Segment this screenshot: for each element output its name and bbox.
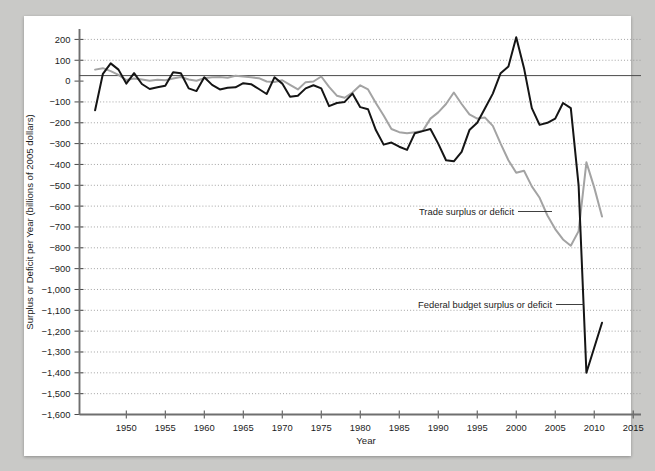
series-line-trade — [95, 68, 602, 246]
y-axis-title: Surplus or Deficit per Year (billions of… — [24, 114, 35, 329]
y-tick-label: −1,200 — [42, 326, 71, 337]
annotation-label-trade: Trade surplus or deficit — [419, 206, 514, 217]
x-tick-label: 2015 — [623, 422, 644, 433]
annotation-federal: Federal budget surplus or deficit — [418, 299, 584, 310]
y-tick-label: −1,400 — [42, 367, 71, 378]
x-tick-label: 1955 — [155, 422, 176, 433]
y-tick-label: −1,300 — [42, 346, 71, 357]
x-tick-label: 1990 — [428, 422, 449, 433]
x-tick-label: 1980 — [350, 422, 371, 433]
x-tick-label: 1960 — [194, 422, 215, 433]
y-tick-label: −800 — [49, 242, 70, 253]
x-tick-label: 2010 — [584, 422, 605, 433]
x-tick-label: 1975 — [311, 422, 332, 433]
x-tick-label: 2005 — [545, 422, 566, 433]
x-tick-label: 1985 — [389, 422, 410, 433]
y-tick-label: −700 — [49, 221, 70, 232]
annotation-trade: Trade surplus or deficit — [419, 206, 552, 217]
gridlines — [82, 39, 642, 414]
y-tick-label: −500 — [49, 180, 70, 191]
y-tick-label: −100 — [49, 96, 70, 107]
y-tick-label: −1,500 — [42, 388, 71, 399]
x-tick-label: 2000 — [506, 422, 527, 433]
y-tick-label: −1,100 — [42, 305, 71, 316]
chart-figure: 2001000−100−200−300−400−500−600−700−800−… — [0, 0, 655, 471]
y-tick-label: −300 — [49, 138, 70, 149]
x-tick-label: 1950 — [116, 422, 137, 433]
y-tick-label: 100 — [55, 55, 71, 66]
y-tick-label: −900 — [49, 263, 70, 274]
x-axis-title: Year — [356, 435, 376, 446]
x-tick-label: 1995 — [467, 422, 488, 433]
y-tick-label: 200 — [55, 34, 71, 45]
chart-canvas: 2001000−100−200−300−400−500−600−700−800−… — [0, 0, 655, 471]
y-tick-label: −400 — [49, 159, 70, 170]
y-tick-label: −1,000 — [42, 284, 71, 295]
annotation-label-federal: Federal budget surplus or deficit — [418, 299, 552, 310]
y-tick-label: −1,600 — [42, 409, 71, 420]
y-tick-label: 0 — [65, 75, 70, 86]
y-tick-label: −200 — [49, 117, 70, 128]
y-tick-label: −600 — [49, 201, 70, 212]
x-tick-label: 1970 — [272, 422, 293, 433]
y-axis-ticks: 2001000−100−200−300−400−500−600−700−800−… — [42, 34, 84, 420]
x-tick-label: 1965 — [233, 422, 254, 433]
series-line-federal-budget — [95, 37, 602, 372]
